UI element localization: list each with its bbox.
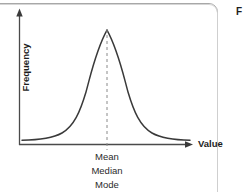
x-axis [19, 141, 193, 148]
chart-canvas [0, 0, 250, 192]
y-axis-arrowhead [16, 9, 22, 17]
mean-label: Mean [95, 150, 119, 164]
mode-label: Mode [95, 178, 119, 192]
x-axis-arrowhead [185, 141, 193, 148]
center-stat-labels: Mean Median Mode [91, 150, 122, 192]
bell-curve-path [22, 30, 190, 140]
distribution-chart [0, 0, 250, 192]
median-label: Median [91, 164, 122, 178]
figure-screenshot: F Frequency Value Mean Median Mode [0, 0, 250, 192]
x-axis-title: Value [198, 138, 223, 149]
y-axis-title: Frequency [20, 43, 31, 91]
